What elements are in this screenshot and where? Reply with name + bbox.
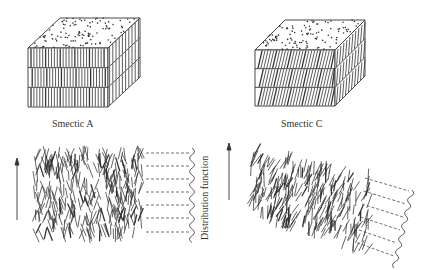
smectic-c-block [255,19,365,106]
smectic-a-block [28,17,140,107]
smectic-c-caption: Smectic C [281,118,322,129]
smectic-phases-figure: Smectic A Smectic C Distribution functio… [0,0,433,270]
figure-canvas [0,0,433,270]
smectic-a-molecular-arrangement [15,146,195,243]
distribution-function-label: Distribution function [199,156,210,240]
smectic-a-caption: Smectic A [52,118,93,129]
smectic-c-molecular-arrangement [227,143,414,268]
